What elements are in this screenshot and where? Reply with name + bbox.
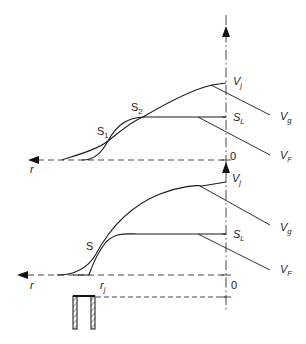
middle-axis-arrow-icon — [222, 162, 230, 173]
bottom-origin-label: 0 — [231, 279, 237, 291]
top-vg-label: Vg — [280, 110, 292, 125]
nozzle-icon — [73, 296, 231, 329]
velocity-profile-diagram: r 0 Vj Vg SL VF S1 S2 r 0 Vj Vg SL — [0, 0, 306, 344]
top-axis-arrow-icon — [222, 26, 230, 37]
bottom-panel: r 0 Vj Vg SL VF S rj — [17, 172, 292, 329]
bottom-vg-label: Vg — [280, 221, 292, 236]
bottom-vj-label: Vj — [232, 172, 241, 187]
top-r-label: r — [30, 163, 35, 175]
bottom-r-arrow-icon — [17, 271, 28, 279]
top-sl-label: SL — [233, 111, 245, 126]
top-origin-label: 0 — [230, 150, 236, 162]
s1-label: S1 — [97, 125, 109, 140]
bottom-vg-leader — [200, 186, 270, 225]
bottom-r-label: r — [30, 279, 35, 291]
bottom-gas-velocity-curve — [57, 182, 226, 275]
top-vj-label: Vj — [233, 75, 242, 90]
s2-label: S2 — [131, 101, 143, 116]
s-label: S — [86, 240, 93, 252]
top-vf-label: VF — [280, 149, 292, 164]
centerline-axis — [222, 15, 230, 312]
bottom-vf-label: VF — [280, 263, 292, 278]
rj-label: rj — [100, 279, 106, 294]
top-gas-velocity-curve — [62, 83, 226, 160]
top-panel: r 0 Vj Vg SL VF S1 S2 — [28, 75, 292, 175]
bottom-sl-label: SL — [233, 228, 245, 243]
